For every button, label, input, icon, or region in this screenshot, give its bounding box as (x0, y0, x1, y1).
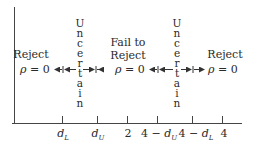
boundary-arrows (0, 0, 256, 146)
